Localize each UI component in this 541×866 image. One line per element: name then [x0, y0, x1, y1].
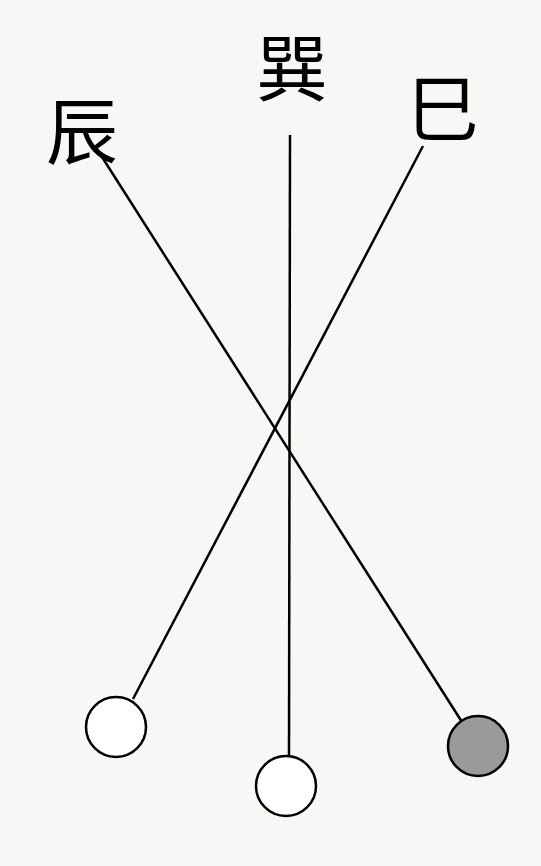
circle-node-0 [86, 697, 146, 757]
character-labels: 辰巽巳 [46, 28, 479, 175]
character-label-1: 巽 [256, 28, 328, 112]
character-label-2: 巳 [407, 68, 479, 152]
connector-line-2 [133, 146, 423, 699]
connector-lines [95, 135, 462, 757]
connector-line-1 [289, 135, 290, 757]
circle-node-2 [448, 716, 508, 776]
character-label-0: 辰 [46, 91, 118, 175]
circle-nodes [86, 697, 508, 816]
connector-line-0 [95, 146, 462, 722]
circle-node-1 [256, 756, 316, 816]
diagram-canvas: 辰巽巳 [0, 0, 541, 866]
